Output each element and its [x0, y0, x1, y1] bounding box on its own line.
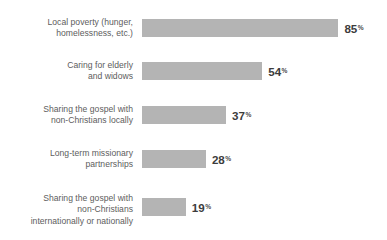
percent-sign: %	[358, 24, 364, 31]
chart-row: Sharing the gospel with non-Christians i…	[0, 187, 387, 233]
percent-sign: %	[282, 67, 288, 74]
bar-value: 19%	[192, 201, 211, 214]
chart-row: Local poverty (hunger, homelessness, etc…	[0, 8, 387, 48]
bar-value: 54%	[268, 65, 287, 78]
bar-track: 28%	[133, 139, 387, 179]
percent-sign: %	[245, 111, 251, 118]
category-label: Sharing the gospel with non-Christians l…	[0, 104, 133, 127]
bar-track: 54%	[133, 51, 387, 91]
category-label: Long-term missionary partnerships	[0, 148, 133, 171]
bar-value-number: 28	[212, 153, 225, 166]
bar-value-number: 37	[232, 109, 245, 122]
bar-value-number: 19	[192, 201, 205, 214]
bar	[142, 62, 262, 80]
bar-value: 85%	[344, 22, 363, 35]
horizontal-bar-chart: Local poverty (hunger, homelessness, etc…	[0, 0, 387, 240]
bar	[142, 19, 338, 37]
bar	[142, 150, 206, 168]
category-label: Local poverty (hunger, homelessness, etc…	[0, 17, 133, 40]
percent-sign: %	[205, 203, 211, 210]
chart-row: Caring for elderly and widows 54%	[0, 51, 387, 91]
bar	[142, 198, 186, 216]
category-label: Sharing the gospel with non-Christians i…	[0, 193, 133, 227]
bar-value: 28%	[212, 153, 231, 166]
bar-track: 19%	[133, 187, 387, 233]
category-label: Caring for elderly and widows	[0, 60, 133, 83]
bar-track: 85%	[133, 8, 387, 48]
percent-sign: %	[225, 155, 231, 162]
bar-value-number: 54	[268, 65, 281, 78]
bar	[142, 106, 226, 124]
bar-value: 37%	[232, 109, 251, 122]
bar-track: 37%	[133, 95, 387, 135]
bar-value-number: 85	[344, 22, 357, 35]
chart-row: Sharing the gospel with non-Christians l…	[0, 95, 387, 135]
chart-row: Long-term missionary partnerships 28%	[0, 139, 387, 179]
